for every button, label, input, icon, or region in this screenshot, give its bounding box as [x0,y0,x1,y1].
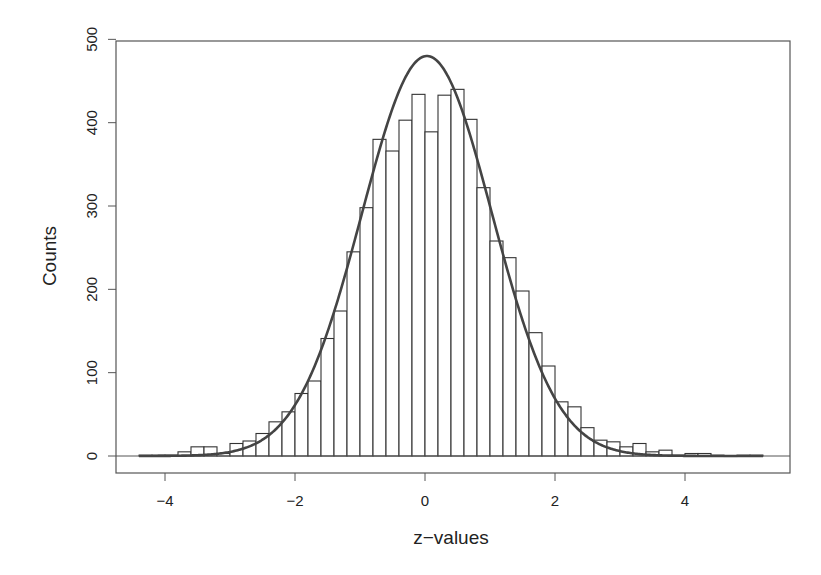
histogram-bar [360,208,373,456]
histogram-bar [425,132,438,456]
y-tick-label: 400 [83,110,100,135]
histogram-chart: −4−2024 0100200300400500 z−values Counts [0,0,821,575]
histogram-bar [490,241,503,456]
x-axis: −4−2024 [156,473,689,509]
y-tick-label: 300 [83,193,100,218]
histogram-bars [139,89,763,456]
histogram-bar [308,381,321,456]
y-axis: 0100200300400500 [83,27,116,460]
x-tick-label: −4 [156,492,173,509]
histogram-bar [386,151,399,456]
histogram-bar [438,95,451,456]
histogram-bar [464,119,477,456]
histogram-bar [412,94,425,456]
x-tick-label: 2 [551,492,559,509]
x-axis-label: z−values [413,527,489,548]
chart-canvas: −4−2024 0100200300400500 z−values Counts [0,0,821,575]
x-tick-label: −2 [286,492,303,509]
histogram-bar [529,333,542,456]
histogram-bar [477,188,490,456]
histogram-bar [347,252,360,456]
y-tick-label: 500 [83,27,100,52]
x-tick-label: 4 [681,492,689,509]
y-tick-label: 0 [83,452,100,460]
histogram-bar [451,89,464,456]
histogram-bar [334,311,347,456]
histogram-bar [399,120,412,456]
histogram-bar [373,139,386,456]
histogram-bar [516,291,529,456]
histogram-bar [269,422,282,456]
x-tick-label: 0 [421,492,429,509]
y-tick-label: 200 [83,277,100,302]
y-tick-label: 100 [83,360,100,385]
histogram-bar [503,258,516,456]
y-axis-label: Counts [39,226,60,286]
histogram-bar [321,339,334,456]
